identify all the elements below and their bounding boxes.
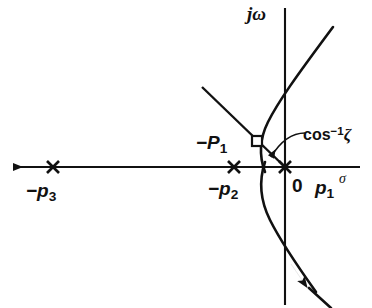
- closed-loop-pole-label-P1-main: −P: [196, 132, 220, 153]
- pole-label-p2: −p2: [208, 179, 238, 202]
- closed-loop-pole-label-P1: −P1: [196, 133, 227, 156]
- imaginary-axis-label-omega: ω: [252, 3, 266, 24]
- root-locus-upper-branch: [261, 27, 333, 172]
- pole-label-p1-subscript: 1: [327, 186, 335, 201]
- constant-damping-line: [202, 87, 286, 168]
- damping-angle-label-zeta: ζ: [344, 125, 352, 144]
- pole-label-p1: p1: [315, 178, 334, 201]
- root-locus-canvas: [0, 0, 372, 308]
- root-locus-figure: jω σ −P1 −p2 −p3 0 p1 cos−1ζ: [0, 0, 372, 308]
- imaginary-axis-label: jω: [247, 4, 266, 23]
- damping-angle-label: cos−1ζ: [303, 126, 351, 143]
- pole-label-p2-main: −p: [208, 178, 231, 199]
- pole-label-p3-main: −p: [26, 180, 49, 201]
- damping-angle-label-exponent: −1: [331, 125, 344, 137]
- real-axis-label: σ: [339, 172, 346, 186]
- root-locus-lower-branch-tail: [309, 288, 331, 308]
- pole-label-p2-subscript: 2: [231, 187, 239, 202]
- closed-loop-pole-label-P1-subscript: 1: [220, 141, 228, 156]
- origin-label: 0: [292, 176, 303, 195]
- root-locus-direction-arrow: [291, 264, 302, 280]
- pole-label-p3-subscript: 3: [49, 189, 57, 204]
- damping-angle-label-cos: cos: [303, 126, 331, 143]
- closed-loop-pole-marker-P1: [252, 136, 262, 146]
- pole-label-p3: −p3: [26, 181, 56, 204]
- root-locus-lower-branch: [261, 162, 316, 292]
- pole-label-p1-main: p: [315, 177, 327, 198]
- damping-angle-leader: [271, 133, 305, 157]
